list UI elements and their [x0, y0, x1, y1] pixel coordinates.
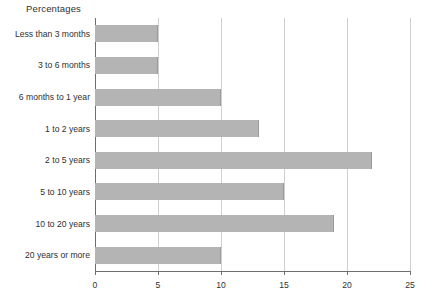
x-tick-label: 20 [337, 280, 357, 290]
bar[interactable] [95, 247, 221, 264]
category-label: 2 to 5 years [0, 145, 90, 177]
bar[interactable] [95, 89, 221, 106]
x-tick-label: 10 [211, 280, 231, 290]
bar-chart: Percentages Less than 3 months3 to 6 mon… [0, 0, 436, 304]
x-tick-mark [284, 271, 285, 275]
x-tick-label: 25 [400, 280, 420, 290]
x-tick-mark [221, 271, 222, 275]
x-tick-mark [95, 271, 96, 275]
x-axis-line [95, 271, 411, 272]
category-label: 5 to 10 years [0, 176, 90, 208]
bar-row[interactable] [95, 81, 410, 113]
bar[interactable] [95, 152, 372, 169]
bar[interactable] [95, 57, 158, 74]
bar[interactable] [95, 183, 284, 200]
bar[interactable] [95, 215, 334, 232]
x-tick-label: 0 [85, 280, 105, 290]
x-tick-mark [410, 271, 411, 275]
bar-row[interactable] [95, 113, 410, 145]
bar[interactable] [95, 25, 158, 42]
category-label: 6 months to 1 year [0, 81, 90, 113]
bar-row[interactable] [95, 176, 410, 208]
gridline-25 [410, 18, 411, 271]
category-label: 20 years or more [0, 239, 90, 271]
x-tick-label: 5 [148, 280, 168, 290]
x-tick-label: 15 [274, 280, 294, 290]
category-label: 1 to 2 years [0, 113, 90, 145]
category-label: Less than 3 months [0, 18, 90, 50]
bar-row[interactable] [95, 208, 410, 240]
category-label: 3 to 6 months [0, 50, 90, 82]
bar-row[interactable] [95, 50, 410, 82]
bar-row[interactable] [95, 18, 410, 50]
x-tick-mark [347, 271, 348, 275]
x-tick-mark [158, 271, 159, 275]
category-label: 10 to 20 years [0, 208, 90, 240]
bar[interactable] [95, 120, 259, 137]
bar-row[interactable] [95, 239, 410, 271]
chart-title: Percentages [26, 3, 81, 14]
bar-row[interactable] [95, 145, 410, 177]
